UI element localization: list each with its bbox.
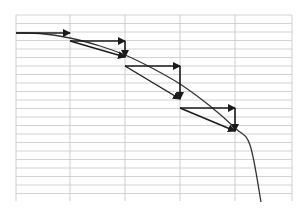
euler-steps	[16, 33, 235, 131]
euler-diagram	[0, 0, 303, 212]
grid	[16, 15, 292, 201]
step-tangent-arrow	[125, 66, 180, 99]
